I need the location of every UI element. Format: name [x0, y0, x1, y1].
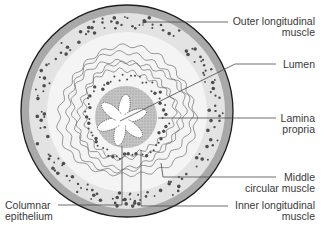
label-middle-circular-muscle: Middle circular muscle — [245, 172, 315, 194]
label-line: propria — [281, 124, 315, 135]
label-lamina-propria: Lamina propria — [281, 113, 315, 135]
label-lumen: Lumen — [283, 59, 315, 70]
label-line: muscle — [235, 211, 315, 222]
label-inner-longitudinal-muscle: Inner longitudinal muscle — [235, 200, 315, 222]
label-line: circular muscle — [245, 183, 315, 194]
label-line: epithelium — [5, 211, 53, 222]
label-line: muscle — [233, 27, 315, 38]
label-line: Lumen — [283, 59, 315, 70]
label-columnar-epithelium: Columnar epithelium — [5, 200, 53, 222]
label-outer-longitudinal-muscle: Outer longitudinal muscle — [233, 16, 315, 38]
